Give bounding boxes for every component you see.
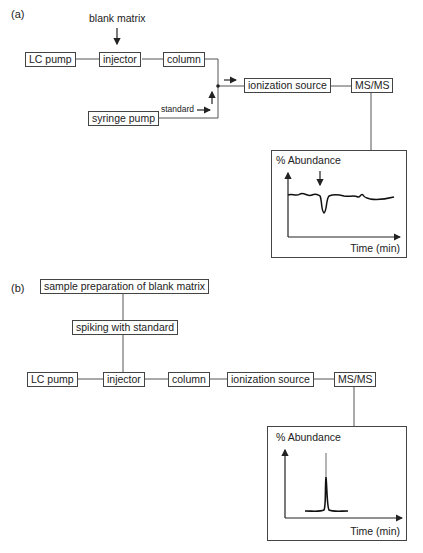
ionization-source-box: ionization source: [244, 78, 331, 93]
ionization-source-box-b: ionization source: [227, 372, 314, 387]
lc-pump-box-b: LC pump: [27, 372, 78, 387]
panel-a-label: (a): [11, 8, 24, 20]
chart-b-peak: % Abundance Time (min): [267, 426, 407, 541]
spiking-box: spiking with standard: [72, 320, 178, 335]
injector-box-b: injector: [103, 372, 145, 387]
standard-label: standard: [161, 103, 194, 115]
msms-box: MS/MS: [351, 78, 393, 93]
injector-box: injector: [99, 52, 141, 67]
sample-prep-box: sample preparation of blank matrix: [40, 279, 209, 294]
lc-pump-box: LC pump: [25, 52, 76, 67]
panel-b-label: (b): [11, 282, 24, 294]
column-box-b: column: [168, 372, 210, 387]
chart-b-plot: [268, 427, 408, 542]
chart-a-depletion: % Abundance Time (min): [271, 150, 407, 258]
chart-a-plot: [272, 151, 408, 259]
msms-box-b: MS/MS: [334, 372, 376, 387]
blank-matrix-label: blank matrix: [89, 12, 146, 24]
syringe-pump-box: syringe pump: [88, 111, 159, 126]
column-box: column: [163, 52, 205, 67]
